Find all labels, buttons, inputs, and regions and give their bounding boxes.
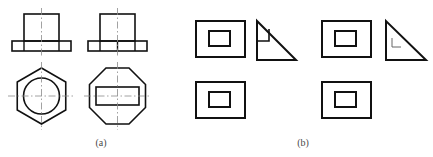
a1-top-view-hexagon-with-circle [8, 62, 75, 130]
a1-front-view-stepped-block [12, 8, 71, 58]
a2-top-view-octagon-with-rectangle [84, 62, 151, 130]
b2-corner-mark-icon [392, 38, 401, 47]
b2-front-view-rectangle-with-hole [322, 21, 371, 57]
b1-front-outer-rect [196, 21, 245, 57]
panel-a: (a) [8, 8, 151, 149]
b1-top-inner-rect [209, 92, 230, 107]
b2-top-inner-rect [335, 92, 356, 107]
b1-top-view-rectangle-with-hole [196, 82, 245, 118]
b1-front-inner-rect [209, 31, 230, 46]
b2-front-inner-rect [335, 31, 356, 46]
caption-a: (a) [95, 137, 106, 149]
b1-side-view-right-triangle-with-notch [257, 21, 296, 60]
b2-side-view-right-triangle-with-corner-mark [386, 21, 426, 60]
b1-top-outer-rect [196, 82, 245, 118]
b2-front-outer-rect [322, 21, 371, 57]
engineering-figure: (a) [0, 0, 433, 157]
b2-top-view-rectangle-with-hole [322, 82, 371, 118]
b1-front-view-rectangle-with-hole [196, 21, 245, 57]
b2-top-outer-rect [322, 82, 371, 118]
drawing-canvas: (a) [0, 0, 433, 157]
panel-b: (b) [196, 21, 426, 149]
caption-b: (b) [297, 137, 309, 149]
a2-front-view-stepped-block [88, 8, 147, 58]
